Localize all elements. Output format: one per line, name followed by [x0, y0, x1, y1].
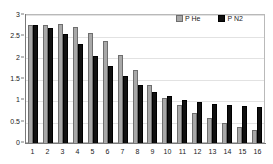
x-tick-label: 10 — [160, 146, 175, 160]
n2-swatch-icon — [218, 15, 225, 22]
he-swatch-icon — [176, 15, 183, 22]
y-tick-label: 0 — [16, 139, 20, 146]
y-tick-label: 1.5 — [10, 75, 20, 82]
bar-n2 — [48, 28, 53, 143]
bar-group — [100, 15, 115, 143]
y-tick-mark — [21, 56, 24, 57]
x-tick-label: 8 — [130, 146, 145, 160]
bar-group — [56, 15, 71, 143]
bar-group — [115, 15, 130, 143]
bar-n2 — [138, 85, 143, 143]
y-tick-label: 2 — [16, 53, 20, 60]
bar-n2 — [182, 100, 187, 143]
bar-n2 — [78, 44, 83, 143]
bar-group — [160, 15, 175, 143]
bar-n2 — [152, 92, 157, 143]
bar-chart: 00.511.522.53 12345678910111213141516 P … — [0, 0, 273, 164]
y-tick-mark — [21, 120, 24, 121]
x-tick-label: 3 — [55, 146, 70, 160]
x-tick-label: 15 — [235, 146, 250, 160]
y-axis-ticks: 00.511.522.53 — [0, 14, 24, 143]
bar-n2 — [167, 96, 172, 143]
bar-group — [41, 15, 56, 143]
x-tick-label: 4 — [70, 146, 85, 160]
y-tick-label: 3 — [16, 11, 20, 18]
bar-group — [130, 15, 145, 143]
x-tick-label: 12 — [190, 146, 205, 160]
y-tick-label: 1 — [16, 96, 20, 103]
legend-item-p-n2: P N2 — [218, 15, 242, 22]
bar-n2 — [63, 34, 68, 143]
bar-n2 — [257, 107, 262, 143]
bar-n2 — [227, 105, 232, 143]
x-tick-label: 13 — [205, 146, 220, 160]
bar-n2 — [123, 76, 128, 143]
y-tick-mark — [21, 78, 24, 79]
x-axis-line — [25, 143, 266, 144]
bars-layer — [26, 15, 264, 143]
y-tick-mark — [21, 142, 24, 143]
bar-n2 — [212, 104, 217, 143]
x-tick-label: 11 — [175, 146, 190, 160]
y-tick-mark — [21, 14, 24, 15]
y-tick-mark — [21, 99, 24, 100]
bar-n2 — [93, 56, 98, 143]
x-tick-label: 6 — [100, 146, 115, 160]
legend-label: P He — [185, 15, 200, 22]
y-tick-mark — [21, 35, 24, 36]
bar-group — [219, 15, 234, 143]
bar-group — [145, 15, 160, 143]
bar-group — [26, 15, 41, 143]
x-tick-label: 1 — [25, 146, 40, 160]
bar-group — [249, 15, 264, 143]
x-tick-label: 16 — [250, 146, 265, 160]
legend-item-p-he: P He — [176, 15, 200, 22]
legend-label: P N2 — [227, 15, 242, 22]
bar-group — [175, 15, 190, 143]
x-axis-labels: 12345678910111213141516 — [25, 146, 265, 160]
bar-n2 — [197, 102, 202, 143]
x-tick-label: 5 — [85, 146, 100, 160]
y-tick-label: 0.5 — [10, 117, 20, 124]
x-tick-label: 7 — [115, 146, 130, 160]
bar-n2 — [242, 106, 247, 143]
chart-legend: P He P N2 — [176, 15, 243, 22]
bar-n2 — [33, 25, 38, 143]
bar-group — [234, 15, 249, 143]
bar-group — [71, 15, 86, 143]
bar-group — [86, 15, 101, 143]
bar-group — [190, 15, 205, 143]
x-tick-label: 9 — [145, 146, 160, 160]
bar-group — [205, 15, 220, 143]
y-tick-label: 2.5 — [10, 32, 20, 39]
bar-n2 — [108, 66, 113, 143]
x-tick-label: 14 — [220, 146, 235, 160]
x-tick-label: 2 — [40, 146, 55, 160]
